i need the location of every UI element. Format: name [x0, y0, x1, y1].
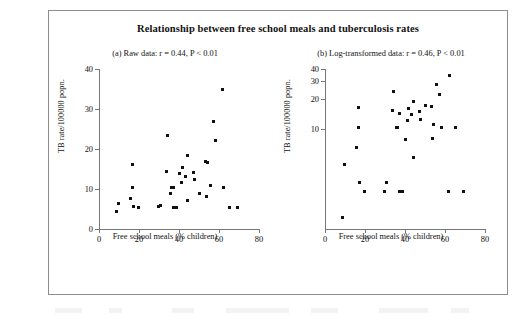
data-point — [435, 83, 438, 86]
data-point — [186, 154, 189, 157]
y-tick-label: 30 — [85, 105, 93, 114]
data-point — [181, 166, 184, 169]
data-point — [358, 181, 361, 184]
data-point — [175, 206, 178, 209]
data-point — [430, 105, 433, 108]
data-point — [236, 206, 239, 209]
data-point — [184, 175, 187, 178]
data-point — [412, 100, 415, 103]
scatter-plot-b: 02040608010203040 — [325, 69, 485, 229]
data-point — [222, 186, 225, 189]
y-axis-line-b — [325, 69, 326, 229]
data-point — [198, 192, 201, 195]
data-point — [385, 181, 388, 184]
data-point — [221, 88, 224, 91]
y-tick-label: 40 — [311, 65, 319, 74]
data-point — [205, 195, 208, 198]
data-point — [424, 104, 427, 107]
data-point — [431, 137, 434, 140]
data-point — [159, 204, 162, 207]
data-point — [186, 199, 189, 202]
data-point — [214, 139, 217, 142]
y-tick-mark — [321, 81, 325, 82]
data-point — [462, 190, 465, 193]
figure-title: Relationship between free school meals a… — [49, 23, 507, 34]
data-point — [447, 190, 450, 193]
data-point — [137, 206, 140, 209]
data-point — [165, 170, 168, 173]
data-point — [363, 190, 366, 193]
data-point — [172, 186, 175, 189]
x-axis-title-a: Free school meals (% children) — [53, 232, 277, 241]
data-point — [355, 146, 358, 149]
panel-b-log-transformed: (b) Log-transformed data: r = 0.46, P < … — [279, 49, 503, 283]
data-point — [180, 181, 183, 184]
data-point — [418, 110, 421, 113]
data-point — [404, 138, 407, 141]
y-tick-mark — [95, 69, 99, 70]
scatter-plot-a: 020406080010203040 — [99, 69, 259, 229]
y-tick-label: 20 — [85, 145, 93, 154]
y-axis-title-b: TB rate/100000 popn. — [283, 79, 292, 153]
y-tick-mark — [95, 189, 99, 190]
data-point — [178, 172, 181, 175]
panel-a-title: (a) Raw data: r = 0.44, P < 0.01 — [53, 49, 277, 58]
y-tick-label: 40 — [85, 65, 93, 74]
data-point — [401, 190, 404, 193]
y-axis-line-a — [99, 69, 100, 229]
y-tick-mark — [95, 109, 99, 110]
data-point — [228, 206, 231, 209]
data-point — [169, 192, 172, 195]
panel-b-title: (b) Log-transformed data: r = 0.46, P < … — [279, 49, 503, 58]
data-point — [396, 126, 399, 129]
data-point — [440, 126, 443, 129]
y-tick-mark — [321, 129, 325, 130]
data-point — [398, 112, 401, 115]
panel-a-raw-data: (a) Raw data: r = 0.44, P < 0.01 0204060… — [53, 49, 277, 283]
data-point — [212, 120, 215, 123]
figure-frame: Relationship between free school meals a… — [48, 10, 508, 295]
x-axis-title-b: Free school meals (% children) — [279, 232, 503, 241]
data-point — [132, 205, 135, 208]
data-point — [407, 107, 410, 110]
data-point — [129, 197, 132, 200]
data-point — [391, 109, 394, 112]
data-point — [166, 134, 169, 137]
data-point — [117, 202, 120, 205]
data-point — [357, 126, 360, 129]
y-tick-mark — [95, 229, 99, 230]
y-tick-mark — [95, 149, 99, 150]
data-point — [392, 90, 395, 93]
data-point — [406, 119, 409, 122]
data-point — [383, 190, 386, 193]
y-tick-label: 10 — [85, 185, 93, 194]
data-point — [454, 126, 457, 129]
y-tick-mark — [321, 69, 325, 70]
y-axis-title-a: TB rate/100000 popn. — [57, 79, 66, 153]
data-point — [419, 118, 422, 121]
y-tick-mark — [321, 99, 325, 100]
data-point — [209, 184, 212, 187]
y-tick-label: 10 — [311, 125, 319, 134]
data-point — [343, 163, 346, 166]
data-point — [448, 74, 451, 77]
data-point — [115, 210, 118, 213]
y-tick-label: 20 — [311, 95, 319, 104]
data-point — [438, 93, 441, 96]
data-point — [412, 156, 415, 159]
data-point — [341, 216, 344, 219]
data-point — [410, 113, 413, 116]
data-point — [131, 163, 134, 166]
data-point — [357, 106, 360, 109]
data-point — [131, 186, 134, 189]
y-tick-label: 30 — [311, 77, 319, 86]
data-point — [432, 123, 435, 126]
page-text-edge — [55, 308, 505, 313]
data-point — [206, 161, 209, 164]
data-point — [193, 178, 196, 181]
data-point — [192, 171, 195, 174]
